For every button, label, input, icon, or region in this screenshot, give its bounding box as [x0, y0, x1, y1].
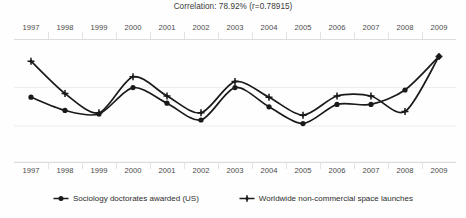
data-point-marker [166, 95, 169, 98]
bottom-year-label: 2003 [218, 162, 252, 180]
top-year-label: 1999 [82, 22, 116, 40]
bottom-year-label: 1997 [14, 162, 48, 180]
top-year-label: 1997 [14, 22, 48, 40]
top-year-label: 2009 [422, 22, 456, 40]
data-point-marker [402, 87, 407, 92]
bottom-year-label: 1999 [82, 162, 116, 180]
top-year-label: 2002 [184, 22, 218, 40]
legend-label: Worldwide non-commercial space launches [259, 194, 413, 203]
data-point-marker [232, 85, 237, 90]
series-layer [28, 53, 443, 126]
data-point-marker [98, 111, 101, 114]
top-year-label: 1998 [48, 22, 82, 40]
data-point-marker [368, 102, 373, 107]
data-point-marker [336, 95, 339, 98]
legend-item-1[interactable]: Sociology doctorates awarded (US) [53, 194, 199, 203]
top-year-label: 2007 [354, 22, 388, 40]
top-year-label: 2000 [116, 22, 150, 40]
legend-item-2[interactable]: Worldwide non-commercial space launches [239, 194, 413, 203]
plot-svg [14, 42, 456, 162]
diamond-marker-icon [53, 194, 69, 203]
data-point-marker [438, 55, 441, 58]
bottom-year-label: 2009 [422, 162, 456, 180]
data-point-marker [164, 101, 169, 106]
bottom-year-label: 2002 [184, 162, 218, 180]
top-year-label: 2003 [218, 22, 252, 40]
top-year-label: 2006 [320, 22, 354, 40]
data-point-marker [234, 80, 237, 83]
data-point-marker [302, 114, 305, 117]
bottom-year-axis: 1997199819992000200120022003200420052006… [14, 162, 456, 180]
chart-title: Correlation: 78.92% (r=0.78915) [0, 2, 466, 11]
bottom-year-label: 2001 [150, 162, 184, 180]
series-1 [28, 54, 441, 126]
bottom-year-label: 2000 [116, 162, 150, 180]
legend-label: Sociology doctorates awarded (US) [73, 194, 199, 203]
bottom-year-label: 2007 [354, 162, 388, 180]
top-year-label: 2001 [150, 22, 184, 40]
data-point-marker [62, 108, 67, 113]
cross-marker-icon [239, 194, 255, 203]
bottom-year-label: 2008 [388, 162, 422, 180]
data-point-marker [200, 111, 203, 114]
top-year-axis: 1997199819992000200120022003200420052006… [14, 22, 456, 40]
data-point-marker [268, 96, 271, 99]
bottom-year-label: 1998 [48, 162, 82, 180]
bottom-year-label: 2005 [286, 162, 320, 180]
data-point-marker [64, 92, 67, 95]
correlation-chart: Correlation: 78.92% (r=0.78915) 19971998… [0, 0, 466, 218]
data-point-marker [404, 110, 407, 113]
top-year-label: 2004 [252, 22, 286, 40]
data-point-marker [30, 60, 33, 63]
data-point-marker [132, 75, 135, 78]
top-year-label: 2008 [388, 22, 422, 40]
top-axis-rule [14, 39, 456, 40]
bottom-year-label: 2006 [320, 162, 354, 180]
data-point-marker [334, 102, 339, 107]
data-point-marker [300, 121, 305, 126]
plot-area [14, 42, 456, 162]
bottom-year-label: 2004 [252, 162, 286, 180]
data-point-marker [370, 95, 373, 98]
data-point-marker [266, 104, 271, 109]
data-point-marker [198, 117, 203, 122]
chart-legend: Sociology doctorates awarded (US)Worldwi… [0, 194, 466, 203]
data-point-marker [28, 95, 33, 100]
top-year-label: 2005 [286, 22, 320, 40]
data-point-marker [130, 85, 135, 90]
